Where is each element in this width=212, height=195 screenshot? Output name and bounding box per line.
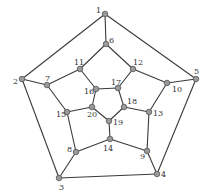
edge-5-10 xyxy=(167,79,196,83)
edge-1-2 xyxy=(22,14,105,79)
vertex-10 xyxy=(164,80,170,86)
edge-7-11 xyxy=(47,69,80,85)
vertex-label-18: 18 xyxy=(127,97,137,106)
graph-diagram: 1234567891011121314151617181920 xyxy=(0,0,212,195)
vertex-5 xyxy=(193,76,199,82)
vertex-label-3: 3 xyxy=(59,183,64,192)
vertex-label-8: 8 xyxy=(67,145,72,154)
vertex-3 xyxy=(56,175,62,181)
vertex-label-20: 20 xyxy=(87,110,97,119)
edge-3-4 xyxy=(59,174,157,178)
vertex-7 xyxy=(44,82,50,88)
edge-1-6 xyxy=(105,14,106,44)
vertex-2 xyxy=(19,76,25,82)
edge-11-16 xyxy=(80,69,96,89)
vertex-label-16: 16 xyxy=(84,87,94,96)
vertex-label-1: 1 xyxy=(96,6,101,15)
vertex-label-7: 7 xyxy=(45,74,50,83)
vertex-19 xyxy=(106,118,112,124)
vertex-4 xyxy=(154,171,160,177)
edge-7-15 xyxy=(47,85,67,112)
vertex-label-2: 2 xyxy=(13,77,18,86)
vertex-label-9: 9 xyxy=(140,152,145,161)
vertex-label-10: 10 xyxy=(172,85,182,94)
vertex-20 xyxy=(89,104,95,110)
vertex-12 xyxy=(130,66,136,72)
edge-3-8 xyxy=(59,152,76,178)
vertex-label-19: 19 xyxy=(113,118,123,127)
edge-16-17 xyxy=(96,88,118,89)
vertex-label-11: 11 xyxy=(74,58,84,67)
vertex-11 xyxy=(77,66,83,72)
vertex-label-12: 12 xyxy=(133,58,143,67)
vertex-18 xyxy=(121,104,127,110)
edge-10-12 xyxy=(133,69,167,83)
vertex-label-13: 13 xyxy=(153,109,163,118)
edge-9-13 xyxy=(147,112,149,151)
vertex-label-4: 4 xyxy=(161,170,166,179)
edge-6-12 xyxy=(106,44,133,69)
vertex-label-15: 15 xyxy=(56,110,66,119)
edge-13-18 xyxy=(124,107,149,112)
vertex-label-5: 5 xyxy=(194,67,199,76)
vertex-13 xyxy=(146,109,152,115)
vertex-label-17: 17 xyxy=(111,78,121,87)
vertex-label-6: 6 xyxy=(109,36,114,45)
edge-4-9 xyxy=(147,151,157,174)
edge-1-5 xyxy=(105,14,196,79)
edge-9-14 xyxy=(110,139,147,151)
vertex-6 xyxy=(103,41,109,47)
vertex-8 xyxy=(73,149,79,155)
vertex-label-14: 14 xyxy=(103,144,113,153)
edge-2-7 xyxy=(22,79,47,85)
vertex-1 xyxy=(102,11,108,17)
edge-10-13 xyxy=(149,83,167,112)
dodecahedron-graph: 1234567891011121314151617181920 xyxy=(0,0,212,195)
vertex-14 xyxy=(107,136,113,142)
